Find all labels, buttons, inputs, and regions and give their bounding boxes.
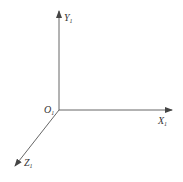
z-axis-line [15, 110, 59, 166]
x-axis-label: X1 [157, 115, 167, 127]
origin-label: O1 [44, 104, 54, 116]
coordinate-system-diagram: Y1 O1 X1 Z1 [0, 0, 183, 182]
z-axis-label: Z1 [24, 157, 33, 169]
y-axis-label: Y1 [64, 12, 73, 24]
